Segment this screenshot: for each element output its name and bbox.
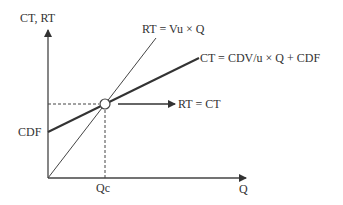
breakeven-quantity-label: Qc bbox=[96, 182, 110, 194]
breakeven-point-marker bbox=[100, 99, 110, 109]
x-axis-label: Q bbox=[239, 183, 248, 195]
breakeven-point-label: RT = CT bbox=[178, 98, 221, 110]
revenue-line-label: RT = Vu × Q bbox=[142, 23, 204, 35]
fixed-cost-label: CDF bbox=[18, 126, 41, 138]
y-axis-label: CT, RT bbox=[20, 12, 55, 24]
cost-line bbox=[48, 58, 199, 132]
cost-line-label: CT = CDV/u × Q + CDF bbox=[200, 52, 320, 64]
